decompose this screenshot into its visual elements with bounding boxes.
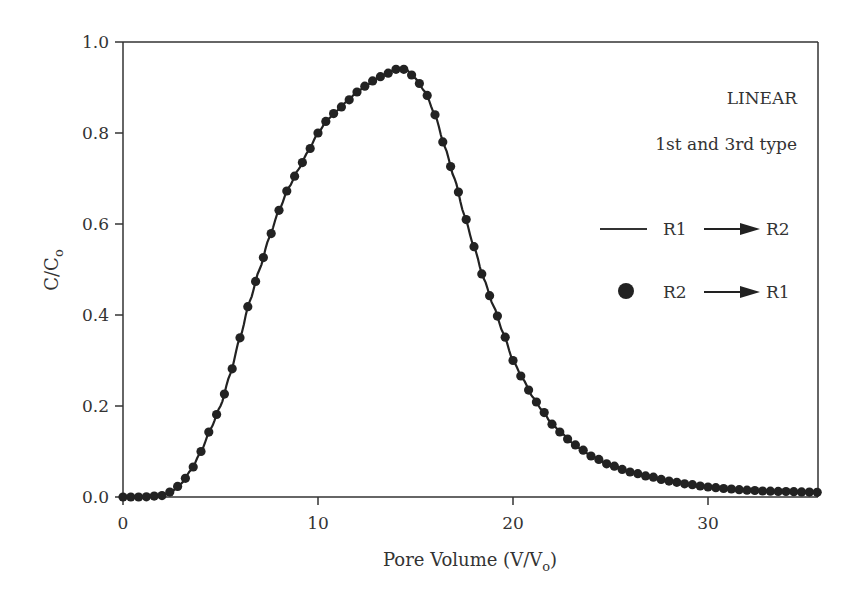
- y-tick-label: 0.2: [82, 396, 109, 416]
- annotation-type: 1st and 3rd type: [655, 134, 797, 154]
- arrow-right-icon: [704, 286, 760, 298]
- arrow-right-icon: [704, 223, 760, 235]
- y-tick-label: 0.0: [82, 487, 109, 507]
- y-tick-label: 0.6: [82, 214, 109, 234]
- legend: R1 R2 R2 R1: [600, 219, 790, 302]
- legend-from-label: R2: [663, 282, 687, 302]
- y-tick-label: 1.0: [82, 32, 109, 52]
- annotation-linear: LINEAR: [727, 88, 799, 108]
- y-axis-ticks: 0.00.20.40.60.81.0: [82, 32, 123, 507]
- legend-entry-r2-r1: R2 R1: [618, 282, 790, 302]
- x-axis-title: Pore Volume (V/Vo): [383, 549, 557, 574]
- y-tick-label: 0.4: [82, 305, 109, 325]
- legend-to-label: R2: [766, 219, 790, 239]
- legend-to-label: R1: [766, 282, 790, 302]
- legend-entry-r1-r2: R1 R2: [600, 219, 790, 239]
- x-tick-label: 30: [697, 513, 719, 533]
- breakthrough-curve-chart: 0102030 0.00.20.40.60.81.0 Pore Volume (…: [0, 0, 855, 594]
- x-tick-label: 10: [307, 513, 329, 533]
- series-r2-r1-dots: [118, 65, 821, 502]
- x-tick-label: 0: [118, 513, 129, 533]
- legend-from-label: R1: [663, 219, 687, 239]
- x-axis-ticks: 0102030: [118, 497, 719, 533]
- plot-frame: [123, 42, 818, 497]
- legend-dot-marker: [618, 283, 634, 299]
- y-tick-label: 0.8: [82, 123, 109, 143]
- x-tick-label: 20: [502, 513, 524, 533]
- y-axis-title: C/Co: [41, 249, 66, 291]
